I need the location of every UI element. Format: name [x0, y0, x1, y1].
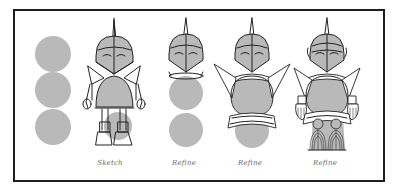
legs-circle	[35, 109, 71, 145]
stage-circles	[35, 36, 71, 145]
stage-refine-1	[169, 18, 203, 147]
label-refine-2: Refine	[238, 159, 262, 167]
stage-refine-3	[294, 18, 360, 150]
label-refine-3: Refine	[313, 159, 337, 167]
head-circle	[35, 36, 71, 72]
label-refine-1: Refine	[172, 159, 196, 167]
stage-refine-2	[214, 18, 290, 148]
body-circle	[35, 72, 71, 108]
character-progression-diagram: .c { fill: #b9b9b9; } .ln { fill: none; …	[0, 0, 398, 192]
stage-sketch	[83, 18, 145, 145]
label-sketch: Sketch	[97, 159, 123, 167]
